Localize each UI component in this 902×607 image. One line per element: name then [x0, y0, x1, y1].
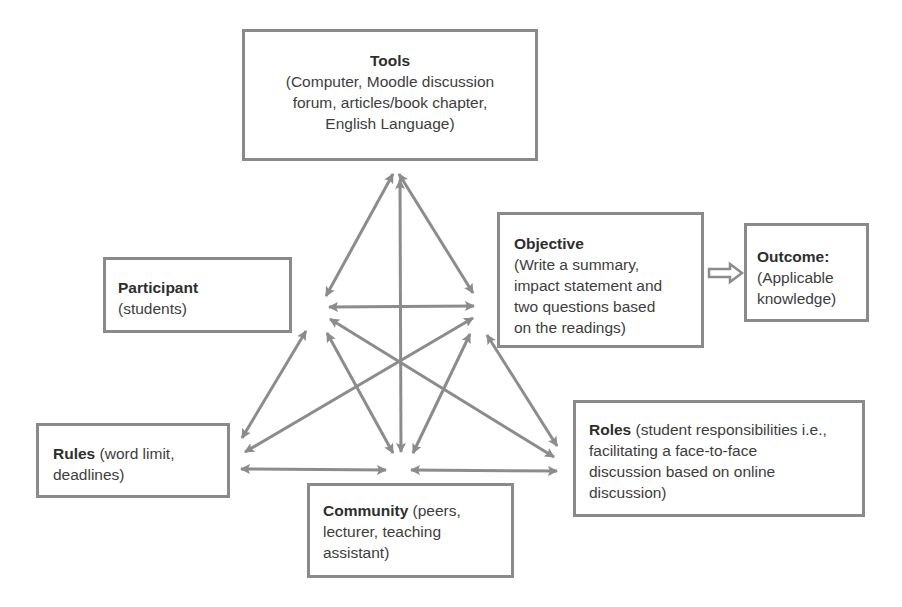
objective-box: Objective (Write a summary, impact state…: [497, 212, 704, 348]
tools-line-3: English Language): [245, 113, 535, 134]
arrow-participant-objective: [329, 306, 474, 307]
community-line-2: lecturer, teaching: [323, 521, 503, 542]
roles-title: Roles: [589, 421, 631, 438]
community-line-1: Community (peers,: [323, 500, 503, 521]
participant-line-1: (students): [118, 298, 281, 319]
outcome-title: Outcome:: [757, 246, 860, 267]
rules-title: Rules: [53, 445, 95, 462]
objective-line-2: impact statement and: [514, 275, 693, 296]
outcome-line-2: knowledge): [757, 288, 860, 309]
participant-box: Participant (students): [103, 257, 292, 333]
objective-title: Objective: [514, 233, 693, 254]
rules-line-2: deadlines): [53, 464, 219, 485]
participant-title: Participant: [118, 277, 281, 298]
arrow-rules-community: [241, 469, 386, 470]
activity-theory-diagram: Tools (Computer, Moodle discussion forum…: [0, 0, 902, 607]
rules-line-1: Rules (word limit,: [53, 443, 219, 464]
outcome-box: Outcome: (Applicable knowledge): [744, 223, 869, 322]
roles-line-1-text: (student responsibilities i.e.,: [631, 421, 827, 438]
tools-line-2: forum, articles/book chapter,: [245, 92, 535, 113]
objective-line-3: two questions based: [514, 296, 693, 317]
roles-line-1: Roles (student responsibilities i.e.,: [589, 419, 854, 440]
tools-box: Tools (Computer, Moodle discussion forum…: [242, 29, 538, 161]
roles-line-4: discussion): [589, 482, 854, 503]
arrow-community-roles: [411, 470, 557, 471]
hollow-arrow-objective-outcome: [709, 264, 742, 282]
arrow-objective-community: [413, 334, 470, 453]
roles-line-2: facilitating a face-to-face: [589, 440, 854, 461]
roles-box: Roles (student responsibilities i.e., fa…: [573, 400, 865, 517]
rules-line-1-text: (word limit,: [95, 445, 174, 462]
community-line-3: assistant): [323, 542, 503, 563]
arrow-objective-roles: [487, 335, 557, 446]
outcome-line-1: (Applicable: [757, 267, 860, 288]
objective-line-4: on the readings): [514, 317, 693, 338]
objective-line-1: (Write a summary,: [514, 254, 693, 275]
rules-box: Rules (word limit, deadlines): [36, 423, 230, 498]
arrow-tools-community: [400, 180, 401, 452]
roles-line-3: discussion based on online: [589, 461, 854, 482]
community-title: Community: [323, 502, 408, 519]
tools-title: Tools: [245, 50, 535, 71]
tools-line-1: (Computer, Moodle discussion: [245, 71, 535, 92]
community-box: Community (peers, lecturer, teaching ass…: [307, 483, 514, 578]
arrow-tools-participant: [326, 174, 393, 296]
community-line-1-text: (peers,: [408, 502, 461, 519]
arrow-tools-objective: [399, 174, 473, 293]
